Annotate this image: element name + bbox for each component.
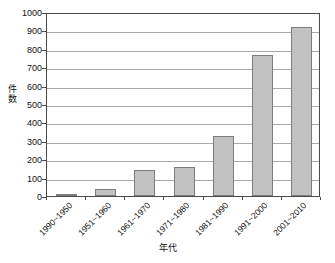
x-tick-mark <box>46 197 47 200</box>
y-tick-label: 100 <box>18 174 42 183</box>
y-axis-title: 件数 <box>6 84 18 104</box>
bar <box>252 55 273 196</box>
y-tick-label: 0 <box>18 193 42 202</box>
bar <box>56 194 77 196</box>
x-axis-title: 年代 <box>0 243 335 253</box>
bar <box>213 136 234 196</box>
plot-area <box>46 13 320 197</box>
bar <box>291 27 312 196</box>
bar <box>174 167 195 196</box>
y-tick-label: 700 <box>18 64 42 73</box>
x-tick-mark <box>85 197 86 200</box>
y-tick-label: 400 <box>18 119 42 128</box>
y-tick-label: 800 <box>18 45 42 54</box>
bars-series <box>47 14 319 196</box>
y-tick-label: 300 <box>18 137 42 146</box>
x-tick-mark <box>320 197 321 200</box>
x-tick-mark <box>203 197 204 200</box>
bar-chart-figure: 件数 10009008007006005004003002001000 1990… <box>0 0 335 263</box>
y-tick-label: 900 <box>18 27 42 36</box>
y-axis-tick-labels: 10009008007006005004003002001000 <box>18 13 42 197</box>
x-tick-mark <box>124 197 125 200</box>
x-tick-mark <box>242 197 243 200</box>
x-tick-mark <box>163 197 164 200</box>
y-tick-label: 600 <box>18 82 42 91</box>
y-tick-label: 500 <box>18 101 42 110</box>
bar <box>134 170 155 196</box>
y-tick-label: 200 <box>18 156 42 165</box>
bar <box>95 189 116 196</box>
y-tick-label: 1000 <box>18 9 42 18</box>
x-axis-tick-labels: 1990~19501951~19601961~19701971~19801981… <box>46 201 320 239</box>
x-tick-mark <box>281 197 282 200</box>
